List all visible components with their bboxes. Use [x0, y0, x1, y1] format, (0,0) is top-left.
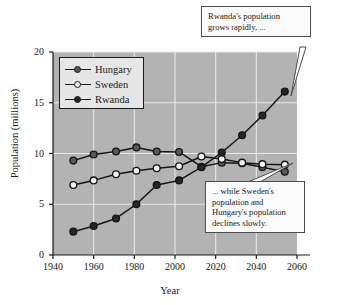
legend-marker-rwanda — [65, 94, 91, 105]
x-axis-title: Year — [140, 285, 200, 296]
figure: Population (millions) Year 05101520 1940… — [0, 0, 344, 305]
y-tick-label: 0 — [22, 249, 44, 260]
callout-rwanda-line2: grows rapidly, ... — [208, 22, 305, 33]
callout-decline-line3: Hungary's population — [212, 207, 299, 218]
callout-decline: ... while Sweden's population and Hungar… — [205, 181, 305, 233]
callout-decline-line1: ... while Sweden's — [212, 186, 299, 197]
legend-label-rwanda: Rwanda — [91, 94, 129, 105]
legend-marker-sweden — [65, 79, 91, 90]
y-tick-label: 5 — [22, 198, 44, 209]
legend-label-hungary: Hungary — [91, 64, 132, 75]
callout-decline-line2: population and — [212, 197, 299, 208]
callout-rwanda-growth: Rwanda's population grows rapidly, ... — [201, 6, 311, 37]
legend-item-hungary[interactable]: Hungary — [60, 62, 143, 77]
x-tick-label: 1940 — [36, 261, 70, 272]
callout-rwanda-line1: Rwanda's population — [208, 11, 305, 22]
x-tick-label: 2060 — [280, 261, 314, 272]
y-axis-title: Population (millions) — [9, 79, 20, 189]
y-tick-label: 20 — [22, 46, 44, 57]
x-tick-label: 1980 — [117, 261, 151, 272]
x-tick-label: 2020 — [199, 261, 233, 272]
chart-legend: Hungary Sweden Rwanda — [59, 57, 144, 109]
x-tick-label: 2000 — [158, 261, 192, 272]
legend-marker-hungary — [65, 64, 91, 75]
y-tick-label: 15 — [22, 97, 44, 108]
legend-item-sweden[interactable]: Sweden — [60, 77, 143, 92]
chart-canvas — [0, 0, 344, 305]
legend-item-rwanda[interactable]: Rwanda — [60, 92, 143, 107]
callout-decline-line4: declines slowly. — [212, 218, 299, 229]
x-tick-label: 2040 — [239, 261, 273, 272]
y-tick-label: 10 — [22, 148, 44, 159]
x-tick-label: 1960 — [77, 261, 111, 272]
legend-label-sweden: Sweden — [91, 79, 128, 90]
